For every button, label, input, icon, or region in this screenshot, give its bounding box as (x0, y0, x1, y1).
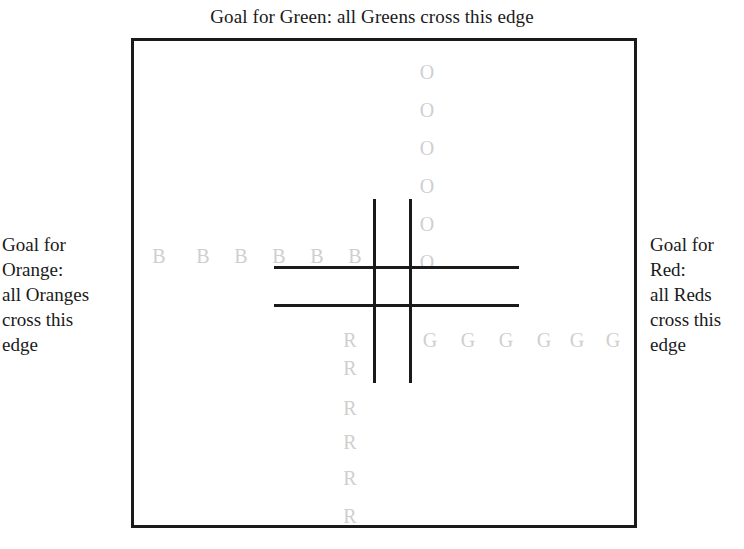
goal-caption-red-line-3: all Reds (650, 282, 744, 307)
piece-blue-3[interactable]: B (230, 246, 252, 266)
piece-orange-1[interactable]: O (416, 62, 438, 82)
piece-red-6[interactable]: R (339, 506, 361, 526)
piece-green-5[interactable]: G (566, 330, 588, 350)
goal-caption-orange-line-4: cross this (2, 307, 128, 332)
piece-orange-4[interactable]: O (416, 176, 438, 196)
piece-orange-6[interactable]: O (416, 252, 438, 272)
piece-red-1[interactable]: R (339, 330, 361, 350)
piece-blue-6[interactable]: B (344, 246, 366, 266)
grid-line-vertical-right (409, 199, 412, 383)
piece-green-2[interactable]: G (457, 330, 479, 350)
grid-line-horizontal-top (274, 266, 519, 269)
piece-blue-1[interactable]: B (148, 246, 170, 266)
goal-caption-orange-line-3: all Oranges (2, 282, 128, 307)
goal-caption-orange-line-5: edge (2, 332, 128, 357)
goal-caption-red-line-5: edge (650, 332, 744, 357)
grid-line-horizontal-bottom (274, 304, 519, 307)
piece-red-3[interactable]: R (339, 398, 361, 418)
piece-green-6[interactable]: G (602, 330, 624, 350)
piece-red-2[interactable]: R (339, 358, 361, 378)
goal-caption-red-line-2: Red: (650, 257, 744, 282)
goal-caption-red-line-4: cross this (650, 307, 744, 332)
piece-blue-5[interactable]: B (306, 246, 328, 266)
piece-green-4[interactable]: G (533, 330, 555, 350)
goal-caption-orange: Goal for Orange: all Oranges cross this … (2, 232, 128, 357)
goal-caption-orange-line-1: Goal for (2, 232, 128, 257)
goal-caption-orange-line-2: Orange: (2, 257, 128, 282)
piece-red-4[interactable]: R (339, 432, 361, 452)
goal-caption-red-line-1: Goal for (650, 232, 744, 257)
goal-caption-green: Goal for Green: all Greens cross this ed… (0, 6, 744, 28)
playfield-border (131, 38, 637, 528)
board-diagram: Goal for Green: all Greens cross this ed… (0, 0, 744, 549)
goal-caption-red: Goal for Red: all Reds cross this edge (650, 232, 744, 357)
piece-green-1[interactable]: G (419, 330, 441, 350)
piece-orange-3[interactable]: O (416, 138, 438, 158)
piece-blue-4[interactable]: B (268, 246, 290, 266)
piece-orange-5[interactable]: O (416, 214, 438, 234)
piece-orange-2[interactable]: O (416, 100, 438, 120)
grid-line-vertical-left (373, 199, 376, 383)
piece-green-3[interactable]: G (495, 330, 517, 350)
piece-red-5[interactable]: R (339, 468, 361, 488)
piece-blue-2[interactable]: B (192, 246, 214, 266)
